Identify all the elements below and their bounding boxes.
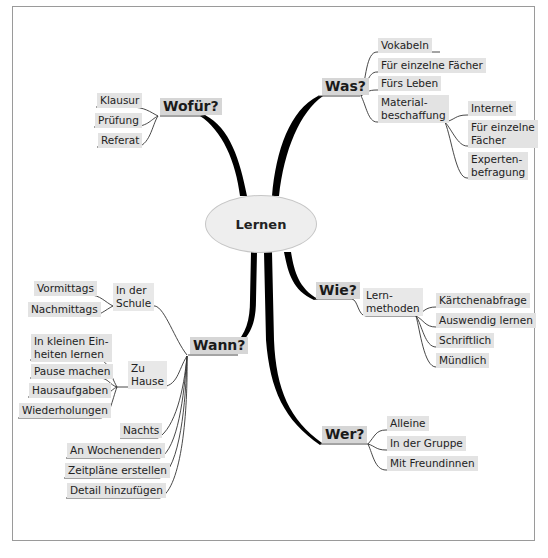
subtopic-vormittags[interactable]: Vormittags: [34, 281, 97, 296]
subtopic-mit-freundinnen[interactable]: Mit Freundinnen: [387, 456, 478, 471]
subtopic-auswendig-lernen[interactable]: Auswendig lernen: [436, 313, 536, 328]
subtopic-detail-hinzufuegen[interactable]: Detail hinzufügen: [67, 483, 166, 498]
subtopic-klausur[interactable]: Klausur: [97, 93, 142, 108]
subtopic-material-einzelne-faecher[interactable]: Für einzelne Fächer: [468, 120, 538, 148]
subtopic-kaertchenabfrage[interactable]: Kärtchenabfrage: [436, 293, 530, 308]
subtopic-internet[interactable]: Internet: [468, 101, 516, 116]
subtopic-nachmittags[interactable]: Nachmittags: [28, 302, 101, 317]
subtopic-wiederholungen[interactable]: Wiederholungen: [19, 403, 111, 418]
subtopic-in-kleinen-einheiten[interactable]: In kleinen Ein- heiten lernen: [31, 334, 112, 362]
topic-wer[interactable]: Wer?: [322, 426, 367, 443]
topic-wann[interactable]: Wann?: [190, 337, 248, 354]
subtopic-an-wochenenden[interactable]: An Wochenenden: [67, 443, 165, 458]
topic-wofuer[interactable]: Wofür?: [160, 98, 222, 115]
subtopic-fuers-leben[interactable]: Fürs Leben: [378, 76, 441, 91]
subtopic-zeitplaene-erstellen[interactable]: Zeitpläne erstellen: [65, 463, 170, 478]
central-topic-lernen[interactable]: Lernen: [205, 195, 317, 253]
subtopic-lernmethoden[interactable]: Lern- methoden: [363, 288, 423, 316]
subtopic-nachts[interactable]: Nachts: [120, 423, 162, 438]
subtopic-pause-machen[interactable]: Pause machen: [31, 364, 113, 379]
subtopic-alleine[interactable]: Alleine: [387, 416, 429, 431]
topic-was[interactable]: Was?: [322, 78, 369, 95]
subtopic-fuer-einzelne-faecher[interactable]: Für einzelne Fächer: [378, 58, 486, 73]
subtopic-vokabeln[interactable]: Vokabeln: [378, 38, 432, 53]
subtopic-in-der-gruppe[interactable]: In der Gruppe: [387, 436, 466, 451]
subtopic-in-der-schule[interactable]: In der Schule: [113, 283, 154, 311]
subtopic-referat[interactable]: Referat: [98, 133, 142, 148]
subtopic-schriftlich[interactable]: Schriftlich: [436, 333, 494, 348]
subtopic-materialbeschaffung[interactable]: Material- beschaffung: [378, 95, 449, 123]
subtopic-hausaufgaben[interactable]: Hausaufgaben: [29, 383, 111, 398]
central-topic-label: Lernen: [236, 217, 287, 232]
subtopic-zu-hause[interactable]: Zu Hause: [128, 361, 167, 389]
subtopic-expertenbefragung[interactable]: Experten- befragung: [468, 152, 528, 180]
topic-wie[interactable]: Wie?: [316, 282, 360, 299]
subtopic-pruefung[interactable]: Prüfung: [95, 113, 142, 128]
subtopic-muendlich[interactable]: Mündlich: [436, 353, 489, 368]
